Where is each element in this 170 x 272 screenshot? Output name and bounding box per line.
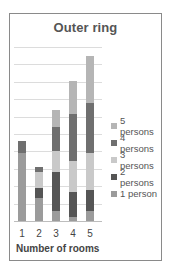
legend-label: 1 person [120, 188, 157, 199]
legend-swatch-icon [111, 174, 117, 180]
x-tick-label: 1 [16, 228, 28, 239]
chart-frame: Outer ring 12345 Number of rooms 5 perso… [9, 13, 162, 261]
bar-segment-1-person [35, 198, 43, 221]
legend-swatch-icon [111, 191, 117, 197]
bar-rooms-3 [52, 110, 60, 221]
x-tick-label: 3 [50, 228, 62, 239]
bar-segment-2-persons [86, 190, 94, 211]
legend-swatch-icon [111, 157, 117, 163]
x-tick-label: 5 [84, 228, 96, 239]
legend: 5 persons4 persons3 persons2 persons1 pe… [111, 117, 161, 202]
plot-area [14, 47, 102, 221]
legend-item: 1 person [111, 185, 161, 202]
bar-rooms-4 [69, 81, 77, 221]
bar-segment-5-persons [86, 56, 94, 103]
bar-rooms-1 [18, 141, 26, 221]
bar-segment-1-person [69, 217, 77, 221]
bar-segment-4-persons [69, 114, 77, 161]
bar-segment-1-person [52, 211, 60, 221]
bar-segment-4-persons [86, 103, 94, 153]
bar-segment-5-persons [69, 81, 77, 114]
x-tick-label: 4 [67, 228, 79, 239]
bar-segment-4-persons [18, 141, 26, 153]
bar-segment-3-persons [86, 153, 94, 190]
bar-segment-4-persons [52, 127, 60, 151]
bar-segment-2-persons [69, 192, 77, 216]
bar-segment-2-persons [35, 188, 43, 198]
bar-segment-3-persons [35, 172, 43, 188]
x-axis-line [14, 221, 102, 222]
bar-segment-2-persons [52, 172, 60, 210]
legend-swatch-icon [111, 123, 117, 129]
bar-segment-5-persons [52, 110, 60, 127]
x-tick-label: 2 [33, 228, 45, 239]
bar-segment-3-persons [52, 151, 60, 172]
legend-label: 2 persons [120, 166, 161, 188]
gridline [14, 47, 102, 48]
legend-item: 2 persons [111, 168, 161, 185]
bar-segment-1-person [86, 211, 94, 221]
bar-rooms-2 [35, 167, 43, 221]
bar-rooms-5 [86, 56, 94, 221]
bar-segment-3-persons [69, 161, 77, 192]
x-axis-label: Number of rooms [16, 243, 99, 254]
chart-title: Outer ring [10, 20, 161, 35]
bar-segment-1-person [18, 153, 26, 221]
legend-swatch-icon [111, 140, 117, 146]
